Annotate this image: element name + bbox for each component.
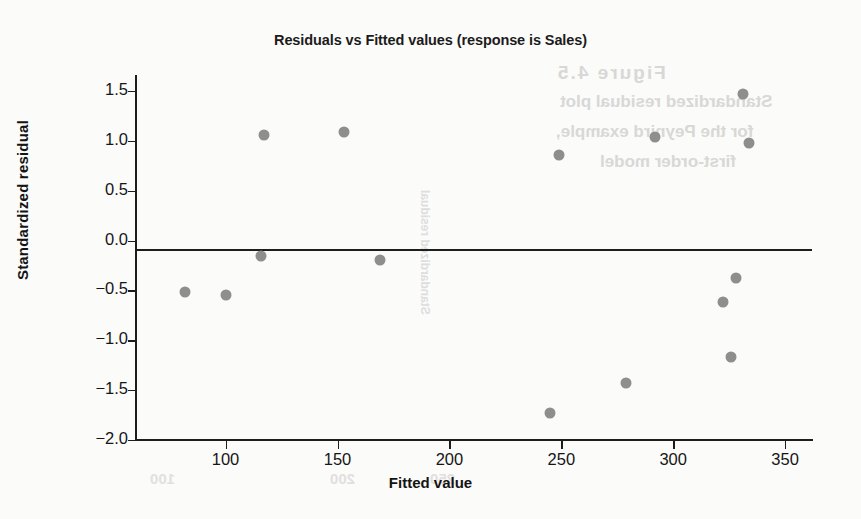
scatter-point — [220, 290, 231, 301]
scatter-point — [554, 149, 565, 160]
scatter-point — [545, 408, 556, 419]
scatter-point — [258, 129, 269, 140]
x-tick-label: 100 — [212, 450, 240, 469]
scatter-point — [730, 273, 741, 284]
scatter-point — [180, 287, 191, 298]
scatter-point — [375, 254, 386, 265]
x-tick-label: 200 — [436, 450, 464, 469]
x-tick-mark — [338, 440, 339, 449]
y-axis-label: Standardized residual — [14, 120, 31, 280]
y-tick-mark — [128, 440, 137, 441]
scatter-point — [339, 126, 350, 137]
scatter-point — [744, 137, 755, 148]
scatter-point — [737, 89, 748, 100]
x-tick-mark — [561, 440, 562, 449]
chart-title: Residuals vs Fitted values (response is … — [0, 32, 861, 48]
scatter-point — [717, 297, 728, 308]
x-tick-mark — [449, 440, 450, 449]
residual-scatter-figure: Figure 4.5 Standardized residual plot fo… — [0, 0, 861, 519]
scatter-point — [726, 352, 737, 363]
scatter-point — [650, 131, 661, 142]
x-tick-mark — [226, 440, 227, 449]
x-axis-label: Fitted value — [0, 474, 861, 491]
x-tick-mark — [785, 440, 786, 449]
x-tick-mark — [673, 440, 674, 449]
x-tick-label: 150 — [324, 450, 352, 469]
x-tick-label: 250 — [548, 450, 576, 469]
scatter-point — [621, 378, 632, 389]
plot-area — [136, 76, 812, 440]
x-tick-label: 350 — [771, 450, 799, 469]
x-tick-label: 300 — [659, 450, 687, 469]
scatter-point — [256, 250, 267, 261]
